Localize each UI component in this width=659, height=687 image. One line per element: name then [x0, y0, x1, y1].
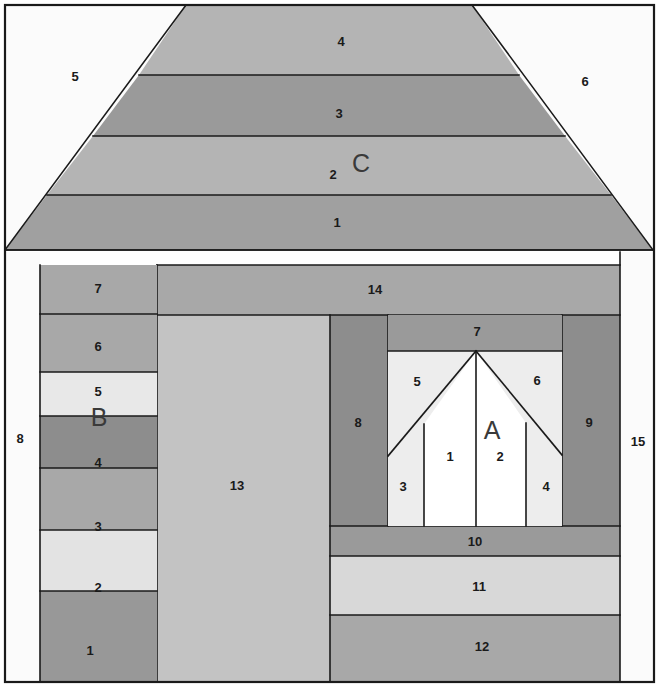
roof-piece-3: [93, 75, 565, 136]
label-window-1: 1: [446, 449, 453, 464]
label-body-15: 15: [631, 434, 645, 449]
body-piece-8-left-strip: [5, 252, 40, 682]
label-stack-6: 6: [94, 339, 101, 354]
label-body-10: 10: [468, 534, 482, 549]
label-window-4: 4: [542, 479, 550, 494]
label-body-9: 9: [585, 415, 592, 430]
label-body-13: 13: [230, 478, 244, 493]
block-label-A: A: [484, 416, 501, 444]
stack-piece-1: [40, 591, 157, 682]
block-label-C: C: [352, 149, 370, 177]
label-window-3: 3: [399, 479, 406, 494]
label-stack-8: 8: [16, 431, 23, 446]
roof-piece-2: [47, 136, 611, 195]
roof-section: [5, 5, 654, 250]
label-roof-3: 3: [335, 106, 342, 121]
label-stack-7: 7: [94, 281, 101, 296]
label-window-6: 6: [533, 373, 540, 388]
label-roof-5: 5: [71, 69, 78, 84]
label-window-5: 5: [413, 374, 420, 389]
label-stack-1: 1: [86, 643, 93, 658]
paper-piecing-pattern-diagram: 4 3 2 1 5 6 7 6 5 4 3 2 1 8 14 13 8 9 10…: [0, 0, 659, 687]
label-stack-3: 3: [94, 519, 101, 534]
body-piece-15-right-strip: [620, 252, 654, 682]
label-window-2: 2: [496, 449, 503, 464]
label-body-14: 14: [368, 282, 383, 297]
pattern-canvas: 4 3 2 1 5 6 7 6 5 4 3 2 1 8 14 13 8 9 10…: [0, 0, 659, 687]
roof-piece-4: [139, 5, 519, 75]
label-window-7: 7: [473, 324, 480, 339]
label-stack-5: 5: [94, 384, 101, 399]
block-label-B: B: [91, 403, 108, 431]
label-body-11: 11: [472, 579, 486, 594]
roof-piece-1: [5, 195, 653, 250]
body-piece-13: [157, 315, 330, 682]
label-stack-4: 4: [94, 455, 102, 470]
label-roof-6: 6: [581, 74, 588, 89]
label-roof-2: 2: [329, 167, 336, 182]
body-piece-14: [157, 265, 620, 315]
label-body-12: 12: [475, 639, 489, 654]
chimney-stack-section: [40, 265, 157, 682]
label-stack-2: 2: [94, 580, 101, 595]
label-body-8: 8: [354, 415, 361, 430]
window-block-section: [388, 315, 562, 526]
label-roof-1: 1: [333, 215, 340, 230]
label-roof-4: 4: [337, 34, 345, 49]
